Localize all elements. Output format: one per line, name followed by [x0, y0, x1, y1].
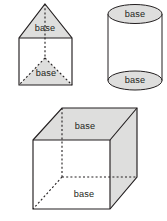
- cylinder-top-base-label: base: [125, 9, 145, 19]
- cube-bottom-base-label: base: [74, 189, 94, 199]
- cube-front-face: [33, 140, 110, 209]
- rectangular-prism: base base: [33, 108, 137, 209]
- solids-diagram: base base base base: [0, 0, 167, 221]
- cube-top-base-label: base: [75, 121, 95, 131]
- prism-bottom-base-label: base: [36, 68, 56, 78]
- triangular-prism: base base: [19, 4, 72, 85]
- cylinder: base base: [108, 5, 162, 91]
- cylinder-bottom-base-label: base: [125, 75, 145, 85]
- prism-top-base-label: base: [35, 23, 55, 33]
- figure-canvas: base base base base: [0, 0, 167, 221]
